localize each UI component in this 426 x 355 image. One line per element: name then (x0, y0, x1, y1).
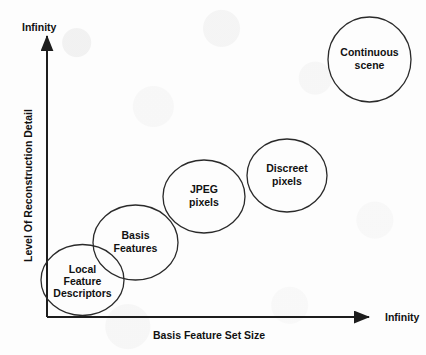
local-feature-descriptors-label-line3: Descriptors (53, 287, 112, 299)
y-axis-title: Level Of Reconstruction Detail (22, 109, 34, 262)
diagram-canvas: Infinity Infinity Level Of Reconstructio… (0, 0, 426, 355)
x-axis-end-label: Infinity (385, 311, 420, 323)
bubble-local-feature-descriptors: Local Feature Descriptors (41, 245, 124, 316)
y-axis-end-label: Infinity (22, 21, 57, 33)
continuous-scene-label-line1: Continuous (340, 46, 398, 58)
bubble-basis-features: Basis Features (93, 205, 178, 280)
discreet-pixels-label-line1: Discreet (266, 162, 308, 174)
continuous-scene-label-line2: scene (355, 59, 385, 71)
basis-features-label-line1: Basis (121, 229, 149, 241)
scatter-bubble-diagram: Infinity Infinity Level Of Reconstructio… (0, 0, 426, 355)
basis-features-label-line2: Features (114, 242, 158, 254)
jpeg-pixels-label-line1: JPEG (190, 183, 218, 195)
bubble-jpeg-pixels: JPEG pixels (163, 160, 245, 233)
bubble-discreet-pixels: Discreet pixels (247, 139, 327, 212)
x-axis-title: Basis Feature Set Size (153, 329, 265, 341)
local-feature-descriptors-label-line2: Feature (64, 275, 102, 287)
local-feature-descriptors-label-line1: Local (69, 263, 97, 275)
jpeg-pixels-label-line2: pixels (189, 196, 219, 208)
discreet-pixels-label-line2: pixels (272, 175, 302, 187)
bubble-continuous-scene: Continuous scene (328, 17, 411, 102)
